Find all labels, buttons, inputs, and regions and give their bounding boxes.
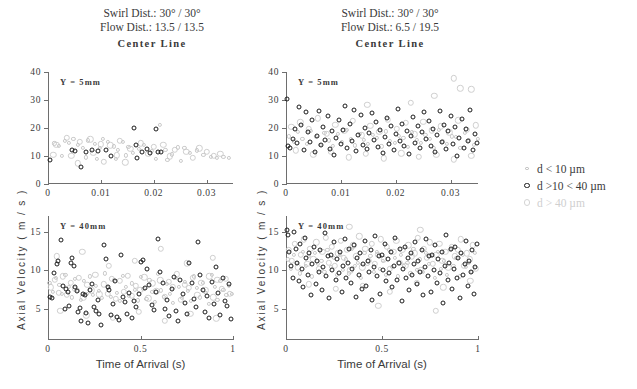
data-point <box>382 241 387 246</box>
data-point <box>90 282 95 287</box>
legend-item-small: d < 10 µm <box>520 160 637 177</box>
x-axis-tick-label: 0.02 <box>386 188 405 198</box>
data-point <box>459 251 464 256</box>
data-point <box>371 138 376 143</box>
data-point <box>373 234 378 239</box>
data-point <box>473 122 479 128</box>
data-point <box>468 86 474 92</box>
data-point <box>119 252 124 257</box>
data-point <box>451 266 456 271</box>
data-point <box>170 152 174 156</box>
data-point <box>154 127 159 132</box>
x-axis-tick <box>154 180 155 184</box>
data-point <box>313 282 318 287</box>
y-axis-tick <box>282 270 287 271</box>
data-point <box>428 144 433 149</box>
data-point <box>83 150 88 155</box>
data-point <box>430 261 436 267</box>
data-point <box>435 133 440 138</box>
x-axis-tick <box>396 180 397 184</box>
data-point <box>148 151 153 156</box>
data-point <box>111 144 115 148</box>
data-point <box>67 303 72 308</box>
data-point <box>389 123 394 128</box>
y-axis-tick-label: 5 <box>36 304 41 314</box>
data-point <box>447 260 452 265</box>
data-point <box>285 232 290 237</box>
data-point <box>467 258 472 263</box>
data-point <box>71 137 75 141</box>
y-axis-tick <box>282 128 287 129</box>
data-point <box>167 313 172 318</box>
data-point <box>78 165 83 170</box>
x-axis-tick <box>382 336 383 340</box>
data-point <box>433 243 438 248</box>
data-point <box>393 141 397 145</box>
data-point <box>346 224 352 230</box>
data-point <box>302 235 307 240</box>
data-point <box>454 276 459 281</box>
data-point <box>347 121 352 126</box>
data-point <box>368 248 373 253</box>
data-point <box>292 126 297 131</box>
x-axis-tick-label: 0.02 <box>144 188 163 198</box>
data-point <box>117 278 123 284</box>
data-point <box>404 128 409 133</box>
data-point <box>305 272 310 277</box>
data-point <box>401 266 406 271</box>
data-point <box>466 138 471 143</box>
data-point <box>363 151 369 157</box>
data-point <box>84 310 89 315</box>
y-axis-tick <box>282 156 287 157</box>
data-point <box>156 237 161 242</box>
data-point <box>345 154 351 160</box>
plot-area: 01020304000.010.020.03Y = 5mm <box>286 72 478 184</box>
data-point <box>303 110 308 115</box>
data-point <box>298 241 303 246</box>
y-axis-tick-label: 5 <box>274 304 279 314</box>
data-point <box>74 289 79 294</box>
data-point <box>168 291 172 295</box>
data-point <box>209 279 214 284</box>
data-point <box>362 238 367 243</box>
y-axis-tick <box>44 184 49 185</box>
data-point <box>415 124 420 129</box>
data-point <box>308 140 313 145</box>
data-point <box>73 148 78 153</box>
data-point <box>409 134 414 139</box>
data-point <box>135 156 140 161</box>
data-point <box>125 272 131 278</box>
data-point <box>461 145 466 150</box>
data-point <box>79 248 85 254</box>
x-axis-tick-label: 0 <box>283 344 288 354</box>
data-point <box>158 123 162 127</box>
data-point <box>338 249 343 254</box>
data-point <box>107 288 112 293</box>
data-point <box>76 142 80 146</box>
data-point <box>124 153 128 157</box>
x-axis-tick-label: 0 <box>45 188 50 198</box>
data-point <box>413 140 418 145</box>
data-point <box>364 283 369 288</box>
data-point <box>312 245 317 250</box>
y-axis-tick-label: 20 <box>30 123 41 133</box>
data-point <box>474 141 479 146</box>
y-axis-tick <box>282 309 287 310</box>
data-point <box>381 259 385 263</box>
data-point <box>56 144 60 148</box>
data-point <box>229 292 233 296</box>
data-point <box>354 148 359 153</box>
x-axis-tick-label: 0.5 <box>134 344 148 354</box>
data-point <box>471 291 476 296</box>
data-point <box>209 273 213 277</box>
flow-distribution-label-right: Flow Dist.: 6.5 / 19.5 <box>290 20 490 34</box>
data-point <box>353 294 358 299</box>
data-point <box>468 107 473 112</box>
data-point <box>301 250 305 254</box>
y-axis-label-right: Axial Velocity ( m / s ) <box>256 189 267 330</box>
data-point <box>136 292 141 297</box>
data-point <box>63 273 67 277</box>
data-point <box>433 150 438 155</box>
panel-annotation: Y = 40mm <box>298 221 344 231</box>
data-point <box>371 265 376 270</box>
